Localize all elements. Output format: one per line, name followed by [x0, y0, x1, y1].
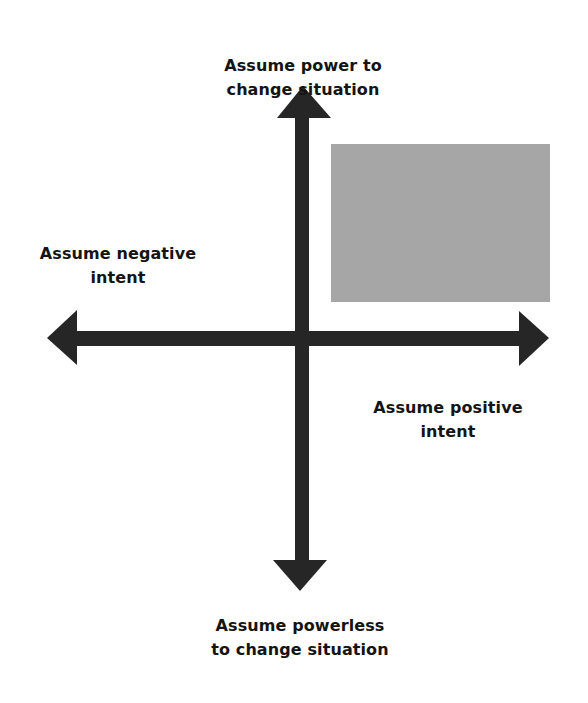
- right-axis-label: Assume positive intent: [348, 396, 548, 444]
- quadrant-diagram: Assume power to change situation Assume …: [0, 0, 588, 703]
- horizontal-axis-stem: [74, 331, 522, 346]
- bottom-axis-label: Assume powerless to change situation: [160, 614, 440, 662]
- arrow-down-icon: [273, 560, 327, 591]
- top-axis-label: Assume power to change situation: [178, 54, 428, 102]
- left-axis-label-line1: Assume negative: [18, 242, 218, 266]
- quadrant-graphic: [0, 0, 588, 703]
- highlighted-quadrant: [331, 144, 550, 302]
- bottom-axis-label-line1: Assume powerless: [160, 614, 440, 638]
- top-axis-label-line2: change situation: [178, 78, 428, 102]
- arrow-right-icon: [519, 311, 549, 366]
- left-axis-label-line2: intent: [18, 266, 218, 290]
- right-axis-label-line2: intent: [348, 420, 548, 444]
- arrow-left-icon: [47, 310, 77, 365]
- left-axis-label: Assume negative intent: [18, 242, 218, 290]
- bottom-axis-label-line2: to change situation: [160, 638, 440, 662]
- right-axis-label-line1: Assume positive: [348, 396, 548, 420]
- top-axis-label-line1: Assume power to: [178, 54, 428, 78]
